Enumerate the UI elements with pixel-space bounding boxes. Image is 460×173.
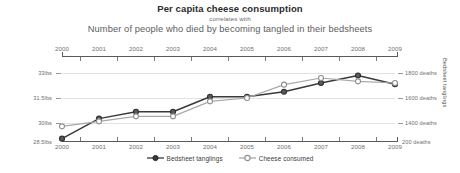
data-point[interactable]: [356, 79, 361, 84]
data-point[interactable]: [208, 99, 213, 104]
data-point[interactable]: [245, 96, 250, 101]
data-point[interactable]: [60, 136, 65, 141]
data-point[interactable]: [319, 81, 324, 86]
legend-label-0: Bedsheet tanglings: [167, 155, 223, 162]
legend-item-cheese-consumed[interactable]: Cheese consumed: [239, 154, 314, 162]
legend-label-1: Cheese consumed: [259, 155, 314, 162]
data-point[interactable]: [356, 73, 361, 78]
filled-circle-marker-icon: [147, 154, 164, 162]
chart-legend: Bedsheet tanglings Cheese consumed: [0, 154, 460, 162]
spurious-correlation-chart: Per capita cheese consumption correlates…: [0, 0, 460, 173]
data-point[interactable]: [282, 89, 287, 94]
open-circle-marker-icon: [239, 154, 256, 162]
data-point[interactable]: [393, 81, 398, 86]
data-point[interactable]: [319, 76, 324, 81]
data-point[interactable]: [171, 114, 176, 119]
series-line-bedsheet-tanglings: [62, 76, 395, 139]
legend-item-bedsheet-tanglings[interactable]: Bedsheet tanglings: [147, 154, 223, 162]
data-point[interactable]: [134, 114, 139, 119]
data-point[interactable]: [60, 124, 65, 129]
series-plot: [0, 0, 460, 173]
data-point[interactable]: [282, 82, 287, 87]
series-line-cheese-consumed: [62, 78, 395, 126]
data-point[interactable]: [97, 119, 102, 124]
